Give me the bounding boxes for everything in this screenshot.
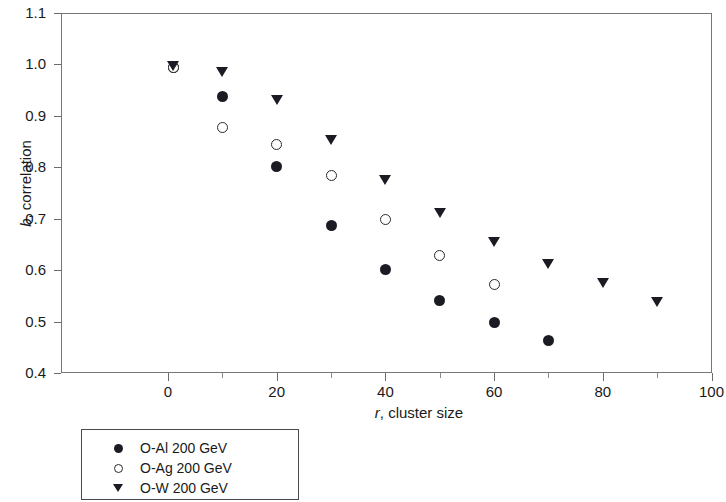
y-axis-tick-label: 1.0 bbox=[2, 56, 46, 71]
legend: O-Al 200 GeVO-Ag 200 GeVO-W 200 GeV bbox=[81, 429, 299, 500]
legend-item: O-W 200 GeV bbox=[82, 478, 298, 499]
y-axis-tick bbox=[54, 167, 61, 168]
y-axis-title-symbol: b bbox=[17, 219, 34, 227]
legend-marker-filled-circle bbox=[110, 438, 126, 459]
x-axis-minor-tick bbox=[222, 373, 223, 378]
x-axis-tick bbox=[385, 373, 386, 381]
y-axis-tick-label: 1.1 bbox=[2, 5, 46, 20]
scatter-chart-figure: 0.40.50.60.70.80.91.01.1 020406080100 r,… bbox=[0, 0, 726, 502]
x-axis-tick-label: 80 bbox=[578, 384, 628, 400]
y-axis-tick bbox=[54, 270, 61, 271]
y-axis-tick bbox=[54, 116, 61, 117]
x-axis-tick bbox=[494, 373, 495, 381]
x-axis-tick bbox=[168, 373, 169, 381]
legend-symbol bbox=[114, 444, 123, 453]
x-axis-tick-label: 20 bbox=[252, 384, 302, 400]
x-axis-tick-label: 0 bbox=[143, 384, 193, 400]
legend-symbol bbox=[113, 484, 123, 492]
x-axis-tick-label: 60 bbox=[469, 384, 519, 400]
x-axis-tick bbox=[712, 373, 713, 381]
legend-symbol bbox=[114, 464, 123, 473]
y-axis-tick-label: 0.4 bbox=[2, 365, 46, 380]
x-axis-minor-tick bbox=[548, 373, 549, 378]
x-axis-tick-label: 40 bbox=[360, 384, 410, 400]
legend-label: O-W 200 GeV bbox=[140, 480, 228, 497]
x-axis-title-text: , cluster size bbox=[380, 404, 463, 421]
x-axis-tick-label: 100 bbox=[687, 384, 726, 400]
x-axis-title: r, cluster size bbox=[0, 404, 726, 421]
legend-item: O-Al 200 GeV bbox=[82, 438, 298, 459]
y-axis-tick bbox=[54, 219, 61, 220]
plot-area bbox=[61, 13, 712, 373]
y-axis-tick bbox=[54, 373, 61, 374]
x-axis-tick bbox=[603, 373, 604, 381]
legend-label: O-Al 200 GeV bbox=[140, 440, 227, 457]
y-axis-title-text: , correlation bbox=[17, 140, 34, 218]
legend-item: O-Ag 200 GeV bbox=[82, 458, 298, 479]
legend-marker-open-circle bbox=[110, 458, 126, 479]
x-axis-minor-tick bbox=[440, 373, 441, 378]
x-axis-tick bbox=[277, 373, 278, 381]
y-axis-title: b, correlation bbox=[17, 114, 34, 254]
legend-marker-triangle-down bbox=[110, 478, 126, 499]
x-axis-minor-tick bbox=[657, 373, 658, 378]
y-axis-tick-label: 0.5 bbox=[2, 314, 46, 329]
y-axis-tick-label: 0.6 bbox=[2, 262, 46, 277]
x-axis-minor-tick bbox=[331, 373, 332, 378]
legend-label: O-Ag 200 GeV bbox=[140, 460, 232, 477]
y-axis-tick bbox=[54, 13, 61, 14]
y-axis-tick bbox=[54, 64, 61, 65]
y-axis-tick bbox=[54, 322, 61, 323]
